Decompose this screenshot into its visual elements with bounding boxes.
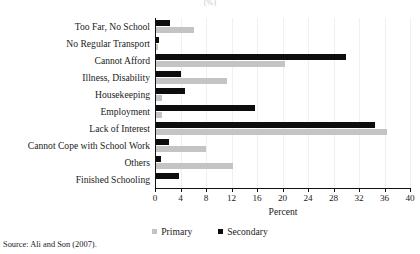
- square-swatch-primary-icon: [152, 229, 157, 234]
- bar-secondary: [156, 71, 181, 77]
- bar-primary: [156, 163, 233, 169]
- x-tick-label: 16: [245, 193, 269, 203]
- category-label: No Regular Transport: [0, 35, 155, 52]
- bar-secondary: [156, 54, 346, 60]
- bar-secondary: [156, 156, 161, 162]
- bar-secondary: [156, 88, 185, 94]
- bar-primary: [156, 112, 162, 118]
- bar-primary: [156, 78, 227, 84]
- legend-label: Secondary: [227, 226, 268, 237]
- square-swatch-secondary-icon: [218, 229, 223, 234]
- category-label: Others: [0, 154, 155, 171]
- x-tick-mark: [206, 188, 207, 192]
- x-tick-label: 0: [143, 193, 167, 203]
- chart-category-row: Illness, Disability: [155, 69, 410, 86]
- x-tick-label: 8: [194, 193, 218, 203]
- x-tick-label: 12: [220, 193, 244, 203]
- x-tick-label: 28: [322, 193, 346, 203]
- bar-secondary: [156, 20, 170, 26]
- x-tick-label: 40: [398, 193, 420, 203]
- chart-category-row: Finished Schooling: [155, 171, 410, 188]
- x-tick-mark: [334, 188, 335, 192]
- category-label: Employment: [0, 103, 155, 120]
- bar-primary: [156, 61, 285, 67]
- x-tick-label: 20: [271, 193, 295, 203]
- chart-category-row: Cannot Afford: [155, 52, 410, 69]
- x-tick-mark: [181, 188, 182, 192]
- category-label: Cannot Afford: [0, 52, 155, 69]
- x-tick-mark: [232, 188, 233, 192]
- legend-item[interactable]: Secondary: [218, 226, 268, 237]
- category-label: Too Far, No School: [0, 18, 155, 35]
- legend-item[interactable]: Primary: [152, 226, 192, 237]
- category-label: Lack of Interest: [0, 120, 155, 137]
- x-axis-label: Percent: [155, 206, 411, 217]
- chart-top-title: (%): [0, 0, 420, 8]
- bar-primary: [156, 146, 206, 152]
- x-tick-label: 32: [347, 193, 371, 203]
- chart-category-row: Others: [155, 154, 410, 171]
- plot-area: Too Far, No SchoolNo Regular TransportCa…: [155, 18, 410, 188]
- x-tick-mark: [410, 188, 411, 192]
- x-tick-mark: [283, 188, 284, 192]
- x-tick-mark: [257, 188, 258, 192]
- bar-secondary: [156, 173, 179, 179]
- gridline: [410, 18, 411, 188]
- chart-category-row: Cannot Cope with School Work: [155, 137, 410, 154]
- chart-figure: (%) Too Far, No SchoolNo Regular Transpo…: [0, 0, 420, 254]
- x-tick-mark: [308, 188, 309, 192]
- bar-secondary: [156, 122, 375, 128]
- bar-secondary: [156, 37, 159, 43]
- bar-secondary: [156, 105, 255, 111]
- bar-primary: [156, 95, 162, 101]
- category-label: Housekeeping: [0, 86, 155, 103]
- chart-category-row: Housekeeping: [155, 86, 410, 103]
- x-tick-label: 36: [373, 193, 397, 203]
- bar-primary: [156, 27, 194, 33]
- chart-category-row: Employment: [155, 103, 410, 120]
- legend-label: Primary: [161, 226, 192, 237]
- bar-primary: [156, 129, 387, 135]
- chart-category-row: No Regular Transport: [155, 35, 410, 52]
- x-tick-mark: [385, 188, 386, 192]
- bar-secondary: [156, 139, 169, 145]
- chart-category-row: Lack of Interest: [155, 120, 410, 137]
- category-label: Cannot Cope with School Work: [0, 137, 155, 154]
- x-tick-mark: [155, 188, 156, 192]
- source-note: Source: Ali and Son (2007).: [3, 240, 97, 249]
- category-label: Finished Schooling: [0, 171, 155, 188]
- chart-legend: PrimarySecondary: [0, 226, 420, 237]
- x-tick-label: 24: [296, 193, 320, 203]
- x-tick-label: 4: [169, 193, 193, 203]
- bar-primary: [156, 44, 158, 50]
- chart-category-row: Too Far, No School: [155, 18, 410, 35]
- x-tick-mark: [359, 188, 360, 192]
- category-label: Illness, Disability: [0, 69, 155, 86]
